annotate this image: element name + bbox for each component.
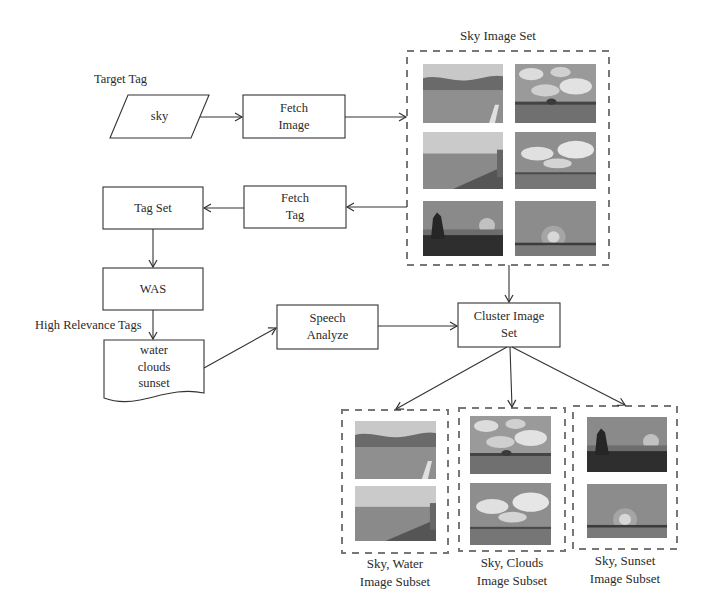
fetch-tag-line1: Fetch: [281, 190, 309, 207]
clouds-subset-photo-1: [470, 416, 551, 474]
edge-cluster-to-clouds: [510, 347, 512, 407]
water-subset-photo-1: [355, 421, 436, 479]
sky-set-photo-2: [515, 64, 596, 123]
sky-set-photo-4: [515, 132, 596, 189]
fetch-tag-line2: Tag: [286, 207, 305, 224]
fetch-image-line1: Fetch: [280, 100, 308, 117]
target-tag-label: Target Tag: [94, 71, 147, 88]
sunset-subset-caption: Sky, Sunset Image Subset: [565, 552, 685, 587]
was-text: WAS: [140, 281, 166, 298]
sky-set-photo-5: [423, 201, 503, 256]
sky-input-text: sky: [151, 108, 168, 125]
tags-document-node: water clouds sunset: [104, 342, 204, 392]
water-caption-line1: Sky, Water: [335, 555, 455, 573]
water-subset-photo-2: [355, 486, 436, 541]
sunset-caption-line1: Sky, Sunset: [565, 552, 685, 570]
clouds-subset-caption: Sky, Clouds Image Subset: [452, 554, 572, 589]
water-subset-caption: Sky, Water Image Subset: [335, 555, 455, 590]
tag-sunset: sunset: [138, 375, 169, 392]
cluster-line2: Set: [501, 325, 517, 342]
edge-cluster-to-sunset: [512, 347, 625, 405]
water-caption-line2: Image Subset: [335, 573, 455, 591]
high-relevance-tags-label: High Relevance Tags: [35, 317, 142, 334]
tag-clouds: clouds: [138, 359, 171, 376]
sunset-subset-photo-2: [587, 484, 667, 538]
fetch-tag-node: Fetch Tag: [244, 186, 346, 228]
cluster-line1: Cluster Image: [474, 308, 544, 325]
edge-cluster-to-water: [396, 347, 507, 409]
was-node: WAS: [103, 268, 203, 310]
tag-set-text: Tag Set: [134, 200, 172, 217]
clouds-subset-photo-2: [470, 483, 551, 545]
fetch-image-node: Fetch Image: [243, 95, 345, 138]
speech-analyze-line2: Analyze: [307, 327, 349, 344]
tag-set-node: Tag Set: [103, 187, 203, 229]
speech-analyze-node: Speech Analyze: [277, 305, 378, 349]
clouds-caption-line1: Sky, Clouds: [452, 554, 572, 572]
fetch-image-line2: Image: [278, 117, 309, 134]
edge-document-to-speech: [204, 328, 276, 368]
tag-water: water: [140, 342, 168, 359]
speech-analyze-line1: Speech: [309, 310, 345, 327]
cluster-image-set-node: Cluster Image Set: [458, 303, 560, 347]
sky-set-photo-6: [515, 201, 596, 256]
sky-image-set-label: Sky Image Set: [460, 27, 536, 45]
sky-input: sky: [110, 95, 209, 138]
sky-set-photo-3: [423, 132, 503, 189]
sunset-caption-line2: Image Subset: [565, 570, 685, 588]
sky-set-photo-1: [423, 64, 503, 123]
sunset-subset-photo-1: [587, 417, 667, 472]
clouds-caption-line2: Image Subset: [452, 572, 572, 590]
